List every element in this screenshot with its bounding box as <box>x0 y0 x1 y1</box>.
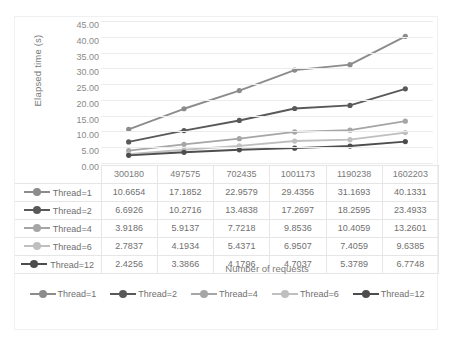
table-row-label: Thread=1 <box>15 184 101 202</box>
table-cell: 18.2595 <box>326 202 382 220</box>
y-axis-ticks: 45.0040.0035.0030.0025.0020.0015.0010.00… <box>43 21 99 163</box>
table-cell: 10.4059 <box>326 220 382 238</box>
series-key-icon <box>24 206 50 214</box>
table-body: Thread=110.665417.185222.957929.435631.1… <box>15 184 439 274</box>
plot-area <box>101 21 433 163</box>
data-point <box>126 153 131 158</box>
table-cell: 23.4933 <box>382 202 438 220</box>
table-column-header: 702435 <box>214 166 270 184</box>
series-key-icon <box>24 224 50 232</box>
gridline <box>101 131 433 132</box>
data-point <box>347 103 352 108</box>
y-axis-tick-label: 30.00 <box>43 67 99 77</box>
table-row-label: Thread=12 <box>15 256 101 274</box>
table-row: Thread=62.78374.19345.43716.95077.40599.… <box>15 238 439 256</box>
legend-item[interactable]: Thread=2 <box>110 289 177 299</box>
table-column-header: 497575 <box>157 166 213 184</box>
data-point <box>181 142 186 147</box>
table-row: Thread=43.91865.91377.72189.853610.40591… <box>15 220 439 238</box>
data-point <box>292 138 297 143</box>
table-corner-cell <box>15 166 101 184</box>
table-row-label: Thread=6 <box>15 238 101 256</box>
table-column-header: 1190238 <box>326 166 382 184</box>
data-point <box>126 139 131 144</box>
table-cell: 7.4059 <box>326 238 382 256</box>
data-point <box>181 150 186 155</box>
y-axis-tick-label: 20.00 <box>43 99 99 109</box>
table-cell: 13.4838 <box>214 202 270 220</box>
data-table: 300180497575702435100117311902381602203 … <box>15 165 439 274</box>
table-row-label-text: Thread=12 <box>50 259 94 269</box>
data-point <box>292 106 297 111</box>
table-cell: 17.1852 <box>157 184 213 202</box>
series-key-icon <box>24 188 50 196</box>
data-point <box>181 106 186 111</box>
chart-container: Elapsed time (s) 45.0040.0035.0030.0025.… <box>14 16 438 330</box>
data-point <box>347 137 352 142</box>
table-cell: 9.6385 <box>382 238 438 256</box>
data-point <box>347 62 352 67</box>
series-thread-12 <box>126 139 408 158</box>
table-cell: 31.1693 <box>326 184 382 202</box>
table-cell: 5.4371 <box>214 238 270 256</box>
table-cell: 29.4356 <box>270 184 326 202</box>
table-cell: 9.8536 <box>270 220 326 238</box>
legend-item[interactable]: Thread=4 <box>191 289 258 299</box>
series-key-icon <box>191 290 217 298</box>
table-row: Thread=26.692610.271613.483817.269718.25… <box>15 202 439 220</box>
legend-item[interactable]: Thread=12 <box>353 289 425 299</box>
series-key-icon <box>24 242 50 250</box>
gridline <box>101 37 433 38</box>
legend-item[interactable]: Thread=6 <box>272 289 339 299</box>
series-lines <box>101 21 433 163</box>
series-key-icon <box>30 290 56 298</box>
table-row-label-text: Thread=2 <box>53 205 92 215</box>
series-thread-1 <box>126 34 408 132</box>
table-column-header: 300180 <box>101 166 157 184</box>
table-row-label: Thread=2 <box>15 202 101 220</box>
series-key-icon <box>353 290 379 298</box>
data-point <box>237 88 242 93</box>
y-axis-tick-label: 25.00 <box>43 83 99 93</box>
data-point <box>237 118 242 123</box>
table-row-label-text: Thread=1 <box>53 187 92 197</box>
legend-item-label: Thread=2 <box>138 289 177 299</box>
y-axis-tick-label: 40.00 <box>43 36 99 46</box>
data-point <box>403 139 408 144</box>
legend-item-label: Thread=12 <box>381 289 425 299</box>
gridline <box>101 84 433 85</box>
table-cell: 3.9186 <box>101 220 157 238</box>
legend-item[interactable]: Thread=1 <box>30 289 97 299</box>
table-row-label: Thread=4 <box>15 220 101 238</box>
table-cell: 10.6654 <box>101 184 157 202</box>
gridline <box>101 163 433 164</box>
gridline <box>101 68 433 69</box>
chart-legend: Thread=1Thread=2Thread=4Thread=6Thread=1… <box>15 289 439 299</box>
x-axis-title: Number of requests <box>101 263 433 274</box>
data-point <box>403 119 408 124</box>
gridline <box>101 53 433 54</box>
table-row-label-text: Thread=4 <box>53 223 92 233</box>
data-point <box>403 86 408 91</box>
table-column-header: 1001173 <box>270 166 326 184</box>
gridline <box>101 100 433 101</box>
y-axis-title: Elapsed time (s) <box>32 11 43 131</box>
table-header-row: 300180497575702435100117311902381602203 <box>15 166 439 184</box>
table-cell: 6.6926 <box>101 202 157 220</box>
table-cell: 13.2601 <box>382 220 438 238</box>
table-cell: 4.1934 <box>157 238 213 256</box>
gridline <box>101 147 433 148</box>
table-cell: 2.7837 <box>101 238 157 256</box>
table-cell: 10.2716 <box>157 202 213 220</box>
table-cell: 7.7218 <box>214 220 270 238</box>
table-cell: 17.2697 <box>270 202 326 220</box>
series-key-icon <box>272 290 298 298</box>
y-axis-tick-label: 5.00 <box>43 146 99 156</box>
legend-item-label: Thread=6 <box>300 289 339 299</box>
table-row: Thread=110.665417.185222.957929.435631.1… <box>15 184 439 202</box>
table-row-label-text: Thread=6 <box>53 241 92 251</box>
gridline <box>101 21 433 22</box>
data-point <box>237 136 242 141</box>
series-key-icon <box>21 260 47 268</box>
table-cell: 6.9507 <box>270 238 326 256</box>
